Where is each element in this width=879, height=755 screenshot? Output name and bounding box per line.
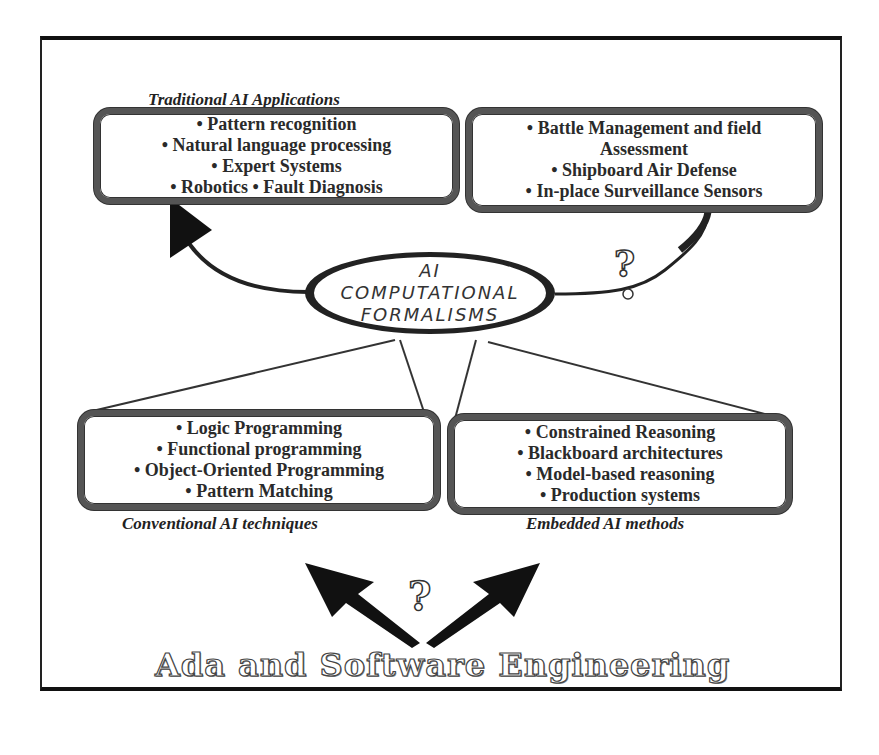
embedded-ai-methods-box: • Constrained Reasoning • Blackboard arc… xyxy=(448,414,792,514)
arrow-to-traditional xyxy=(182,232,308,292)
list-item: • Pattern Matching xyxy=(185,481,332,502)
traditional-ai-applications-title: Traditional AI Applications xyxy=(148,90,340,110)
list-item: • Model-based reasoning xyxy=(526,464,715,485)
question-mark-icon: ? xyxy=(614,242,635,284)
list-item: • Robotics • Fault Diagnosis xyxy=(170,177,383,198)
conventional-ai-techniques-title: Conventional AI techniques xyxy=(122,514,318,534)
list-item: • Blackboard architectures xyxy=(517,443,723,464)
center-line: AI xyxy=(419,260,441,282)
list-item: • Pattern recognition xyxy=(197,114,357,135)
arrow-up-left-icon xyxy=(305,563,420,648)
embedded-ai-methods-title: Embedded AI methods xyxy=(526,514,684,534)
conventional-ai-techniques-box: • Logic Programming • Functional program… xyxy=(78,410,440,510)
list-item: • Shipboard Air Defense xyxy=(551,160,737,181)
center-line: FORMALISMS xyxy=(361,304,500,326)
list-item: Assessment xyxy=(600,139,688,160)
embedded-ai-applications-box: • Battle Management and field Assessment… xyxy=(466,108,822,212)
list-item: • Expert Systems xyxy=(211,156,341,177)
question-mark-icon: ? xyxy=(408,572,431,619)
list-item: • Object-Oriented Programming xyxy=(134,460,384,481)
list-item: • Functional programming xyxy=(157,439,362,460)
list-item: • Logic Programming xyxy=(176,418,342,439)
list-item: • Production systems xyxy=(540,485,700,506)
ada-software-engineering-title: Ada and Software Engineering xyxy=(155,646,730,684)
traditional-ai-applications-box: • Pattern recognition • Natural language… xyxy=(94,108,459,204)
list-item: • Constrained Reasoning xyxy=(525,422,715,443)
arrow-up-right-icon xyxy=(426,563,540,648)
center-line: COMPUTATIONAL xyxy=(341,282,520,304)
ai-computational-formalisms-node: AI COMPUTATIONAL FORMALISMS xyxy=(305,252,555,334)
list-item: • Battle Management and field xyxy=(527,118,761,139)
list-item: • In-place Surveillance Sensors xyxy=(526,181,763,202)
list-item: • Natural language processing xyxy=(162,135,391,156)
